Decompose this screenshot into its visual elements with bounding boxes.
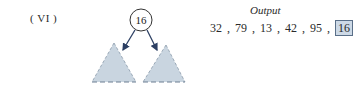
root-node-value: 16 [136,14,148,26]
output-value: 79 [235,21,247,36]
output-value-highlighted: 16 [335,20,353,36]
output-sequence: 32 , 79 , 13 , 42 , 95 , 16 [210,20,353,36]
output-value: 13 [260,21,272,36]
left-subtree-triangle [92,43,136,82]
output-value: 42 [285,21,297,36]
separator: , [327,21,330,36]
separator: , [252,21,255,36]
output-value: 32 [210,21,222,36]
tree-diagram: 16 [0,0,361,94]
right-subtree-triangle [143,45,185,82]
output-value: 95 [310,21,322,36]
left-arrow [123,30,135,50]
separator: , [302,21,305,36]
output-title: Output [250,4,281,16]
right-arrow [147,30,157,50]
separator: , [277,21,280,36]
separator: , [227,21,230,36]
